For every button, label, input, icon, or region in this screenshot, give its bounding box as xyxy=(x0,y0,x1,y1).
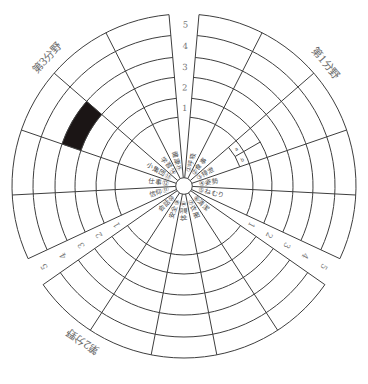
radial-tick-label: 1 xyxy=(182,103,188,113)
spoke-line xyxy=(106,33,180,179)
spoke-line xyxy=(189,193,278,330)
spoke-line xyxy=(21,130,176,183)
radial-axis-3: 12345 xyxy=(38,220,122,271)
ring-arc xyxy=(55,57,173,240)
radial-tick-label: 1 xyxy=(246,220,257,230)
sub-item-label: b xyxy=(240,156,245,163)
ring-arc xyxy=(199,15,356,259)
radial-tick-label: 2 xyxy=(182,82,188,92)
radial-tick-label: 4 xyxy=(57,251,68,261)
radial-tick-label: 4 xyxy=(300,251,311,261)
spoke-line xyxy=(188,33,262,179)
polar-assessment-chart: ①呼吸②食事③排泄ab④姿勢⑤ねむり第1分野⑥清潔⑦衣服体温⑧安全⑨会話⑩第2分… xyxy=(0,0,368,384)
radial-tick-label: 5 xyxy=(183,19,189,29)
radial-tick-label: 4 xyxy=(182,41,188,51)
ring-arc xyxy=(12,15,169,259)
radial-tick-label: 3 xyxy=(182,62,188,72)
radial-tick-label: 5 xyxy=(38,262,49,272)
spoke-line xyxy=(186,194,217,355)
radial-tick-label: 3 xyxy=(75,241,86,251)
item-label: 体温 xyxy=(179,207,188,221)
radial-tick-label: 3 xyxy=(281,241,292,251)
sector-title: 第2分野 xyxy=(63,326,101,357)
sector-3: 信仰⑪仕事⑫小集団⑬学習⑭健康⑮第3分野 xyxy=(12,15,185,259)
radial-axis-1: 12345 xyxy=(182,19,188,113)
ring-arc xyxy=(78,260,289,315)
spoke-line xyxy=(43,191,177,285)
spoke-line xyxy=(190,73,314,180)
spoke-line xyxy=(90,193,179,330)
ring-arc xyxy=(127,226,240,255)
radial-tick-label: 1 xyxy=(111,220,122,230)
sector-2: ⑥清潔⑦衣服体温⑧安全⑨会話⑩第2分野 xyxy=(43,191,325,358)
sector-title: 第3分野 xyxy=(30,40,64,76)
ring-arc xyxy=(195,57,313,240)
sub-item-label: a xyxy=(233,145,239,152)
sector-title: 第1分野 xyxy=(309,45,343,81)
radial-tick-label: 2 xyxy=(93,230,104,240)
item-label: ねむり xyxy=(203,187,225,200)
hub-circle xyxy=(176,178,193,195)
spoke-line xyxy=(191,191,325,285)
radial-tick-label: 5 xyxy=(318,262,329,272)
radial-tick-label: 2 xyxy=(264,230,275,240)
radial-axis-2: 12345 xyxy=(246,220,330,271)
sector-1: ①呼吸②食事③排泄ab④姿勢⑤ねむり第1分野 xyxy=(183,15,356,259)
spoke-line xyxy=(151,194,182,355)
spoke-line xyxy=(192,130,347,183)
